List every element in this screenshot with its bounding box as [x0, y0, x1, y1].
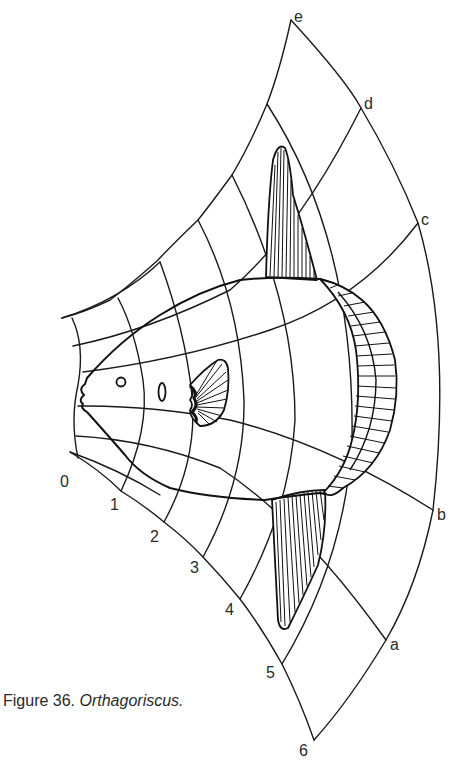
- label-b: b: [437, 506, 446, 523]
- label-4: 4: [225, 601, 234, 618]
- gill-opening: [159, 383, 166, 401]
- label-5: 5: [266, 664, 275, 681]
- caption-taxon: Orthagoriscus.: [80, 692, 184, 709]
- label-c: c: [421, 211, 429, 228]
- orthagoriscus-figure: 0 1 2 3 4 5 6 a b c d e: [0, 0, 460, 771]
- label-1: 1: [110, 496, 119, 513]
- figure-caption: Figure 36. Orthagoriscus.: [3, 692, 184, 710]
- label-3: 3: [190, 559, 199, 576]
- upper-left-arc: [62, 20, 291, 318]
- eye-icon: [117, 378, 126, 387]
- dorsal-fin: [266, 147, 317, 281]
- label-6: 6: [299, 742, 308, 759]
- fish: [81, 147, 397, 630]
- caption-prefix: Figure 36.: [3, 692, 75, 709]
- label-2: 2: [150, 528, 159, 545]
- axis-number-labels: 0 1 2 3 4 5 6: [60, 473, 308, 759]
- label-d: d: [364, 95, 373, 112]
- label-0: 0: [60, 473, 69, 490]
- label-e: e: [294, 8, 303, 25]
- label-a: a: [390, 636, 399, 653]
